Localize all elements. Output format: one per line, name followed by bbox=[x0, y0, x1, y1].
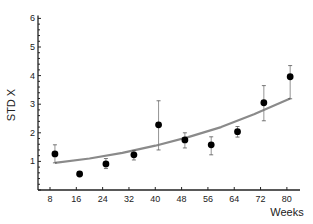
x-tick-label: 8 bbox=[47, 194, 52, 204]
x-axis-title: Weeks bbox=[270, 206, 304, 218]
x-tick-label: 72 bbox=[256, 194, 266, 204]
data-point bbox=[287, 66, 294, 99]
data-point bbox=[208, 137, 215, 155]
y-tick-label: 2 bbox=[30, 128, 35, 138]
x-tick-label: 56 bbox=[203, 194, 213, 204]
x-tick-label: 64 bbox=[229, 194, 239, 204]
scatter-chart: 1234568162432404856647280 Weeks STD X bbox=[0, 0, 313, 224]
fitted-curve bbox=[55, 99, 290, 163]
data-point bbox=[181, 133, 188, 148]
x-tick-label: 32 bbox=[124, 194, 134, 204]
y-tick-label: 5 bbox=[30, 42, 35, 52]
axes: 1234568162432404856647280 bbox=[30, 13, 300, 204]
data-point bbox=[76, 171, 83, 178]
data-point bbox=[155, 101, 162, 150]
x-tick-label: 16 bbox=[71, 194, 81, 204]
y-axis-title: STD X bbox=[5, 88, 17, 121]
data-point bbox=[260, 86, 267, 121]
data-point bbox=[103, 159, 110, 169]
data-points bbox=[52, 66, 294, 178]
data-point bbox=[234, 127, 241, 138]
x-tick-label: 48 bbox=[177, 194, 187, 204]
x-tick-label: 40 bbox=[150, 194, 160, 204]
y-tick-label: 4 bbox=[30, 71, 35, 81]
x-tick-label: 24 bbox=[98, 194, 108, 204]
x-tick-label: 80 bbox=[282, 194, 292, 204]
y-tick-label: 3 bbox=[30, 99, 35, 109]
data-point bbox=[52, 145, 59, 163]
y-tick-label: 1 bbox=[30, 156, 35, 166]
y-tick-label: 6 bbox=[30, 13, 35, 23]
